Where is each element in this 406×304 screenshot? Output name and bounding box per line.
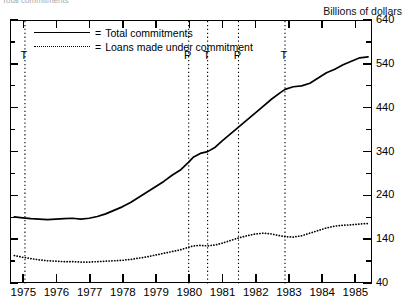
x-axis-label-1982: 1982 [243,286,269,298]
x-axis-tick-top [89,20,90,28]
legend-equals-sign: = [95,27,101,39]
y-axis-label-540: 540 [376,58,394,69]
y-axis-tick-major [363,282,372,284]
x-axis-tick-bottom [56,274,58,283]
y-axis-label-640: 640 [376,14,394,25]
legend-swatch-dotted-line [34,43,90,50]
legend-equals-sign: = [95,41,101,53]
y-axis-tick-major-left [10,195,18,197]
y-axis-tick-major [363,195,372,197]
x-axis-tick-bottom [22,274,24,283]
chart-legend: = Total commitments = Loans made under c… [34,26,253,54]
cycle-marker-peak: P [184,50,191,61]
legend-label-loans-made-under-commitment: Loans made under commitment [105,41,253,53]
legend-item-total-commitments: = Total commitments [34,26,253,39]
x-axis-label-1985: 1985 [343,286,369,298]
x-axis-tick-bottom [354,274,356,283]
y-axis-tick-minor [366,217,372,218]
y-axis-label-40: 40 [376,277,388,288]
x-axis-label-1978: 1978 [110,286,136,298]
y-axis-label-240: 240 [376,189,394,200]
x-axis-tick-bottom [255,274,257,283]
x-axis-label-1981: 1981 [210,286,236,298]
y-axis-tick-minor-left [10,173,15,174]
y-axis-tick-major [363,19,372,21]
x-axis-label-1975: 1975 [10,286,36,298]
x-axis-tick-bottom [188,274,190,283]
x-axis-label-1979: 1979 [143,286,169,298]
x-axis-label-1983: 1983 [276,286,302,298]
y-axis-tick-major [363,238,372,240]
cycle-marker-trough: T [21,50,28,61]
y-axis-label-140: 140 [376,233,394,244]
x-axis-tick-bottom [155,274,157,283]
x-axis-tick-top [321,20,322,28]
x-axis-tick-top [288,20,289,28]
y-axis-tick-minor [366,85,372,86]
legend-swatch-solid-line [34,29,90,36]
x-axis-label-1977: 1977 [77,286,103,298]
cycle-marker-trough: T [203,50,210,61]
y-axis-tick-major-left [10,151,18,153]
x-axis-tick-top [23,20,24,28]
y-axis-tick-minor-left [10,85,15,86]
x-axis-tick-bottom [321,274,323,283]
x-axis-label-1980: 1980 [177,286,203,298]
y-axis-tick-major-left [10,282,18,284]
legend-item-loans-made-under-commitment: = Loans made under commitment [34,40,253,53]
y-axis-tick-minor-left [10,260,15,261]
y-axis-tick-minor [366,129,372,130]
y-axis-tick-minor-left [10,217,15,218]
series-line-loans-made-under-commitment [14,224,368,263]
y-axis-tick-minor [366,41,372,42]
x-axis-tick-top [355,20,356,28]
chart-figure: Total commitments Billions of dollars = … [0,0,406,304]
y-axis-label-340: 340 [376,146,394,157]
x-axis-tick-top [255,20,256,28]
y-axis-tick-major-left [10,107,18,109]
x-axis-label-1976: 1976 [44,286,70,298]
y-axis-tick-major-left [10,19,18,21]
y-axis-tick-minor-left [10,41,15,42]
cycle-marker-trough: T [281,50,288,61]
x-axis-tick-bottom [89,274,91,283]
x-axis-tick-top [189,20,190,28]
x-axis-tick-bottom [288,274,290,283]
x-axis-tick-top [122,20,123,28]
y-axis-tick-minor-left [10,129,15,130]
series-line-total-commitments [14,57,368,220]
cycle-marker-peak: P [234,50,241,61]
x-axis-tick-bottom [122,274,124,283]
x-axis-tick-top [56,20,57,28]
y-axis-tick-major-left [10,238,18,240]
y-axis-tick-major [363,63,372,65]
y-axis-tick-major-left [10,63,18,65]
legend-label-total-commitments: Total commitments [105,27,193,39]
y-axis-label-440: 440 [376,102,394,113]
y-axis-tick-minor [366,260,372,261]
y-axis-tick-major [363,151,372,153]
x-axis-tick-top [155,20,156,28]
x-axis-label-1984: 1984 [309,286,335,298]
x-axis-tick-top [222,20,223,28]
y-axis-tick-major [363,107,372,109]
clipped-title: Total commitments [2,0,152,9]
chart-canvas [11,21,373,284]
x-axis-tick-bottom [222,274,224,283]
y-axis-tick-minor [366,173,372,174]
